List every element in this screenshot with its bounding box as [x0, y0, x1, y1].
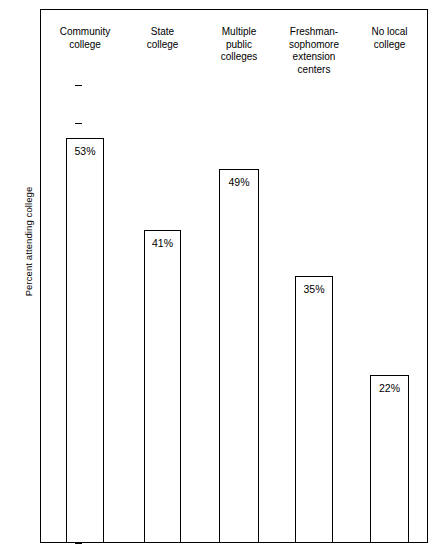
bar: 49% — [219, 169, 259, 543]
bar: 41% — [144, 230, 181, 543]
bar: 53% — [66, 138, 104, 543]
plot-area: 051015202530354045505560 53%41%49%35%22%… — [40, 9, 428, 543]
bar: 22% — [370, 375, 409, 543]
category-label: Community college — [40, 26, 130, 51]
bar-value-label: 49% — [220, 176, 258, 188]
bar-value-label: 41% — [145, 237, 180, 249]
category-label: No local college — [345, 26, 435, 51]
bar-value-label: 35% — [296, 283, 332, 295]
y-tick-mark — [75, 123, 82, 125]
y-tick-mark — [75, 85, 82, 87]
bar: 35% — [295, 276, 333, 543]
y-axis-title: Percent attending college — [23, 152, 34, 332]
bar-value-label: 22% — [371, 382, 408, 394]
bar-value-label: 53% — [67, 145, 103, 157]
bar-chart: Percent attending college 05101520253035… — [0, 0, 436, 547]
